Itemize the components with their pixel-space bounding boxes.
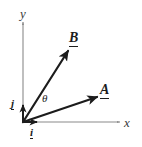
y-axis-label: y [20,7,26,20]
vector-diagram: y x B A i j θ [0,0,142,147]
x-axis-label: x [124,116,130,129]
vector-diagram-canvas [0,0,142,147]
angle-theta-label: θ [42,93,47,104]
unit-vector-i-label: i [30,127,33,139]
vector-b-label: B [69,31,78,47]
vector-a-arrow [23,97,97,122]
vector-b-arrow [23,51,68,122]
unit-vector-j-label: j [11,98,14,110]
vector-a-label: A [100,83,109,99]
